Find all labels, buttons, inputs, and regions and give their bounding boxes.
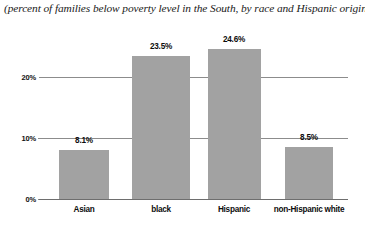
category-label-hispanic: Hispanic <box>202 205 266 214</box>
ytick-mark-10 <box>38 138 42 139</box>
bar-value-hispanic: 24.6% <box>202 35 266 44</box>
category-label-non-hispanic-white: non-Hispanic white <box>264 205 354 214</box>
bar-chart: (percent of families below poverty level… <box>0 0 365 232</box>
ytick-label-20: 20% <box>12 73 36 82</box>
bar-black[interactable] <box>132 56 190 199</box>
bar-value-non-hispanic-white: 8.5% <box>277 133 341 142</box>
ytick-label-10: 10% <box>12 134 36 143</box>
category-label-black: black <box>129 205 193 214</box>
bar-asian[interactable] <box>59 150 109 199</box>
bar-value-black: 23.5% <box>129 42 193 51</box>
axis-baseline <box>39 199 348 200</box>
bar-value-asian: 8.1% <box>52 136 116 145</box>
bar-hispanic[interactable] <box>208 49 261 199</box>
chart-title: (percent of families below poverty level… <box>4 1 362 15</box>
bar-non-hispanic-white[interactable] <box>285 147 333 199</box>
ytick-label-0: 0% <box>12 195 36 204</box>
gridline-20 <box>39 77 348 78</box>
category-label-asian: Asian <box>52 205 116 214</box>
